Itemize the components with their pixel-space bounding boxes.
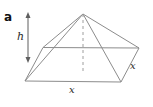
figure-panel: a hxx [0, 0, 153, 107]
arrow-up-icon [26, 12, 31, 18]
pyramid-edge-apex-back_right [83, 14, 139, 48]
pyramid-edge-apex-back_left [43, 14, 83, 48]
arrow-down-icon [26, 57, 31, 63]
pyramid-edge-back_left-back_right [43, 48, 139, 49]
right-side-label: x [130, 60, 136, 71]
base-side-label: x [69, 84, 75, 95]
pyramid-diagram: hxx [0, 0, 153, 107]
pyramid-edge-front_left-front_right [25, 81, 121, 82]
height-label: h [17, 30, 24, 43]
